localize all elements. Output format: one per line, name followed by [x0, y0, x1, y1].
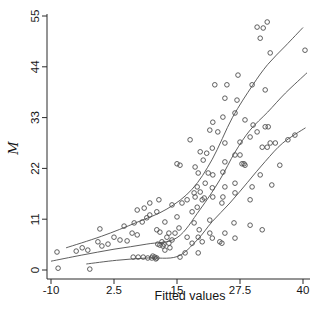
data-point	[193, 165, 198, 170]
data-point	[208, 231, 213, 236]
data-point	[190, 210, 195, 215]
data-point	[250, 185, 255, 190]
data-point	[203, 181, 208, 186]
data-point	[216, 130, 221, 135]
data-point	[74, 249, 79, 254]
x-tick-label: 2.5	[106, 284, 122, 296]
data-point	[233, 181, 238, 186]
y-tick-label: 0	[29, 267, 41, 273]
data-point	[185, 235, 190, 240]
y-tick-label: 11	[29, 213, 41, 225]
data-point	[200, 240, 205, 245]
data-point	[233, 236, 238, 241]
data-point	[168, 246, 173, 251]
data-point	[238, 153, 243, 158]
data-point	[55, 250, 60, 255]
data-point	[206, 171, 211, 176]
data-point	[213, 83, 218, 88]
data-point	[258, 36, 263, 41]
data-point	[243, 118, 248, 123]
data-point	[118, 238, 123, 243]
data-point	[142, 206, 147, 211]
data-point	[167, 231, 172, 236]
data-point	[195, 185, 200, 190]
data-point	[192, 221, 197, 226]
data-point	[198, 150, 203, 155]
data-point	[56, 266, 61, 271]
data-point	[273, 141, 278, 146]
data-point	[96, 240, 101, 245]
data-point	[268, 141, 273, 146]
data-point	[211, 173, 216, 178]
y-tick-label: 55	[29, 10, 41, 23]
x-tick-label: -10	[43, 284, 60, 296]
data-point	[223, 231, 228, 236]
data-point	[265, 145, 270, 150]
data-point	[197, 228, 202, 233]
data-point	[210, 146, 215, 151]
data-point	[98, 227, 103, 232]
lower-fit-curve	[86, 128, 305, 264]
data-point	[236, 73, 241, 78]
data-point	[268, 51, 273, 56]
data-point	[175, 215, 180, 220]
data-point	[211, 120, 216, 125]
data-point	[125, 239, 130, 244]
data-point	[223, 160, 228, 165]
axis-frame	[47, 14, 310, 279]
data-point	[155, 210, 160, 215]
data-point	[148, 213, 153, 218]
data-point	[303, 48, 308, 53]
data-point	[248, 223, 253, 228]
data-point	[220, 201, 225, 206]
data-point	[233, 191, 238, 196]
data-point	[100, 244, 105, 249]
data-point	[223, 141, 228, 146]
data-point	[163, 248, 168, 253]
data-point	[88, 267, 93, 272]
data-point	[248, 135, 253, 140]
data-point	[196, 171, 201, 176]
data-point	[260, 228, 265, 233]
data-point	[130, 231, 135, 236]
data-point	[208, 218, 213, 223]
data-point	[86, 248, 91, 253]
data-point	[204, 151, 209, 156]
data-point	[260, 145, 265, 150]
data-point	[135, 208, 140, 213]
y-axis-label: M	[6, 141, 21, 156]
data-point	[266, 125, 271, 130]
data-point	[270, 183, 275, 188]
data-point	[180, 201, 185, 206]
axes	[47, 14, 310, 279]
data-point	[163, 220, 168, 225]
data-point	[255, 130, 260, 135]
data-point	[148, 201, 153, 206]
data-point	[188, 138, 193, 143]
data-point	[223, 185, 228, 190]
data-point	[185, 198, 190, 203]
data-point	[173, 231, 178, 236]
data-point	[135, 233, 140, 238]
data-point	[211, 195, 216, 200]
data-point	[208, 128, 213, 133]
data-point	[177, 226, 182, 231]
data-point	[198, 190, 203, 195]
data-point	[196, 251, 201, 256]
data-point	[265, 20, 270, 25]
data-point	[223, 96, 228, 101]
x-tick-label: 27.5	[229, 284, 251, 296]
data-point	[248, 198, 253, 203]
data-point	[232, 221, 237, 226]
data-point	[263, 88, 268, 93]
data-point	[201, 158, 206, 163]
data-point	[195, 205, 200, 210]
scatter-plot-figure: -102.51527.540 01122334455 M Fitted valu…	[0, 0, 322, 323]
data-point	[80, 246, 85, 251]
data-point	[106, 242, 111, 247]
x-tick-label: 40	[297, 284, 310, 296]
y-tick-label: 44	[29, 60, 41, 73]
data-point	[255, 25, 260, 30]
data-point	[210, 236, 215, 241]
upper-fit-curve	[66, 28, 303, 248]
